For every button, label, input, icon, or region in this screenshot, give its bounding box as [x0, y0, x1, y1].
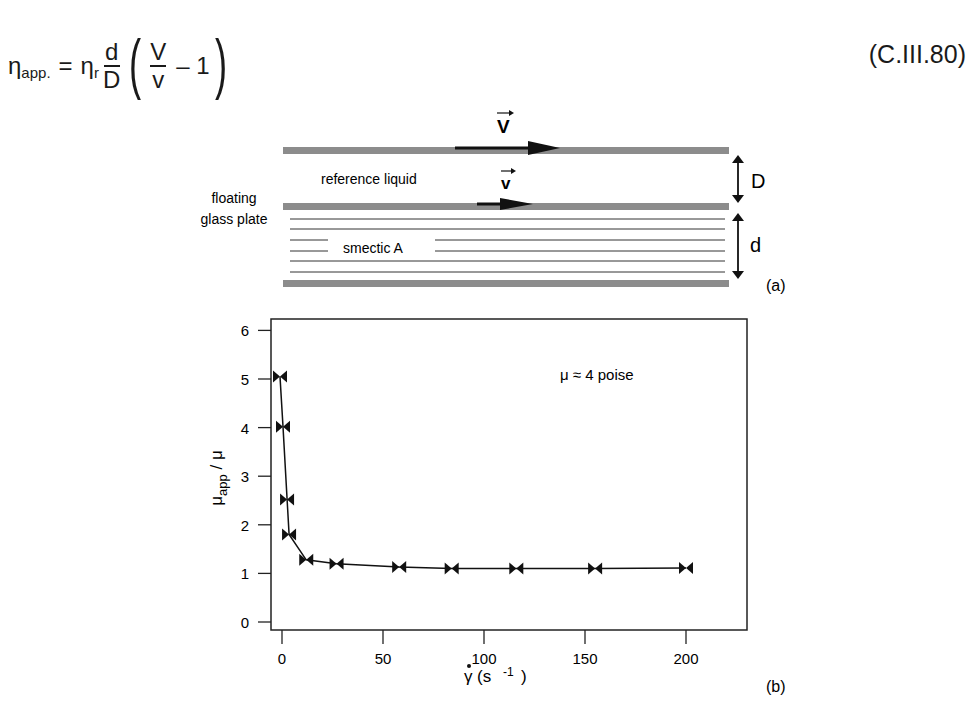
floating-plate-label-2: glass plate — [201, 211, 268, 227]
viscosity-chart: 0123456 050100150200 μ ≈ 4 poise μapp / … — [0, 300, 978, 711]
y-tick-label: 0 — [241, 614, 249, 631]
y-tick-label: 4 — [241, 420, 249, 437]
x-tick-label: 0 — [278, 650, 286, 667]
flow-cell-diagram: V v D d reference liquid floating glass … — [0, 0, 978, 300]
y-tick-label: 6 — [241, 322, 249, 339]
y-axis-label: μapp / μ — [207, 450, 230, 505]
svg-text:γ: γ — [464, 667, 473, 686]
svg-text:μapp / μ: μapp / μ — [207, 450, 230, 505]
gap-d-arrow-icon — [732, 213, 744, 279]
x-axis: 050100150200 — [278, 630, 699, 667]
data-markers — [273, 371, 693, 575]
velocity-v-label: v — [501, 174, 511, 193]
y-tick-label: 5 — [241, 371, 249, 388]
velocity-V-label: V — [497, 116, 510, 137]
bowtie-marker-icon — [299, 554, 313, 566]
data-curve — [280, 377, 686, 569]
bowtie-marker-icon — [679, 562, 693, 574]
y-tick-label: 1 — [241, 565, 249, 582]
svg-text:-1: -1 — [503, 665, 514, 679]
panel-tag-a: (a) — [766, 277, 786, 294]
y-tick-label: 3 — [241, 468, 249, 485]
y-tick-label: 2 — [241, 517, 249, 534]
x-tick-label: 100 — [471, 650, 496, 667]
gap-D-arrow-icon — [732, 155, 744, 203]
plot-frame — [271, 319, 747, 630]
x-tick-label: 150 — [572, 650, 597, 667]
gap-d-label: d — [750, 234, 761, 256]
bowtie-marker-icon — [330, 558, 344, 570]
gap-D-label: D — [751, 170, 765, 192]
x-axis-label: γ (s -1 ) — [464, 664, 527, 686]
smectic-label: smectic A — [343, 240, 404, 256]
y-axis: 0123456 — [241, 322, 271, 631]
svg-text:(s: (s — [477, 667, 491, 686]
x-tick-label: 200 — [673, 650, 698, 667]
panel-tag-b: (b) — [766, 678, 786, 695]
annotation: μ ≈ 4 poise — [560, 366, 634, 383]
reference-liquid-label: reference liquid — [321, 171, 417, 187]
floating-plate-label-1: floating — [211, 190, 256, 206]
svg-text:): ) — [521, 667, 527, 686]
bottom-fixed-plate — [283, 280, 729, 287]
x-tick-label: 50 — [375, 650, 392, 667]
